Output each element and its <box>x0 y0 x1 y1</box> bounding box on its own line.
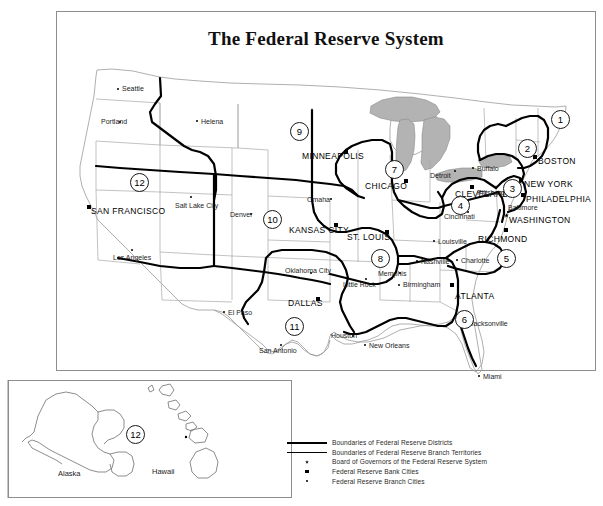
branch-city-label-oklahoma-city: Oklahoma City <box>285 267 331 274</box>
bank-city-label-kansas-city: KANSAS CITY <box>289 226 349 235</box>
branch-city-label-helena: Helena <box>201 118 223 125</box>
district-marker-11: 11 <box>285 317 304 336</box>
branch-city-marker <box>280 344 282 346</box>
bank-city-marker <box>450 283 454 287</box>
branch-city-label-new-orleans: New Orleans <box>369 342 409 349</box>
bank-city-label-dallas: DALLAS <box>288 299 323 308</box>
branch-city-marker <box>131 249 133 251</box>
branch-city-label-buffalo: Buffalo <box>477 165 499 172</box>
bank-city-label-san-francisco: SAN FRANCISCO <box>91 207 165 216</box>
branch-city-label-jacksonville: Jacksonville <box>470 320 508 327</box>
legend-row-star-marker: Board of Governors of the Federal Reserv… <box>282 457 582 467</box>
branch-city-marker <box>364 344 366 346</box>
branch-city-marker <box>472 167 474 169</box>
inset-region-label-alaska: Alaska <box>58 470 81 478</box>
district-marker-12: 12 <box>130 173 149 192</box>
bank-city-label-minneapolis: MINNEAPOLIS <box>302 152 364 161</box>
legend-label: Federal Reserve Bank Cities <box>332 468 419 475</box>
legend-row-thin-line: Boundaries of Federal Reserve Branch Ter… <box>282 448 582 458</box>
dot-marker-icon <box>306 480 308 482</box>
district-marker-3: 3 <box>503 179 522 198</box>
branch-city-label-los-angeles: Los Angeles <box>113 254 151 261</box>
district-marker-8: 8 <box>371 249 390 268</box>
inset-region-label-hawaii: Hawaii <box>152 468 175 476</box>
thin-line-icon <box>287 452 327 453</box>
bank-city-marker <box>504 228 508 232</box>
bank-city-label-richmond: RICHMOND <box>478 235 528 244</box>
branch-city-label-birmingham: Birmingham <box>403 281 440 288</box>
legend-label: Boundaries of Federal Reserve Districts <box>332 439 452 446</box>
legend-row-square-marker: Federal Reserve Bank Cities <box>282 467 582 477</box>
bank-city-label-new-york: NEW YORK <box>524 180 573 189</box>
bank-city-label-st-louis: ST. LOUIS <box>347 233 390 242</box>
legend-row-thick-line: Boundaries of Federal Reserve Districts <box>282 438 582 448</box>
branch-city-marker <box>223 311 225 313</box>
branch-city-label-detroit: Detroit <box>430 172 451 179</box>
branch-city-label-denver: Denver <box>230 211 253 218</box>
district-marker-2: 2 <box>518 139 537 158</box>
branch-city-label-louisville: Louisville <box>438 238 467 245</box>
legend-key-wrap <box>282 442 332 445</box>
district-marker-7: 7 <box>385 160 404 179</box>
bank-city-label-philadelphia: PHILADELPHIA <box>526 195 591 204</box>
branch-city-marker <box>117 88 119 90</box>
branch-city-marker <box>456 259 458 261</box>
district-marker-10: 10 <box>263 210 282 229</box>
branch-city-label-little-rock: Little Rock <box>343 281 376 288</box>
legend-key-wrap <box>282 480 332 482</box>
legend-label: Federal Reserve Branch Cities <box>332 478 425 485</box>
square-marker-icon <box>305 470 308 473</box>
district-marker-9: 9 <box>290 122 309 141</box>
bank-city-label-chicago: CHICAGO <box>365 182 407 191</box>
federal-reserve-map-page: The Federal Reserve System <box>0 0 603 506</box>
branch-city-label-miami: Miami <box>483 373 502 380</box>
branch-city-marker <box>433 240 435 242</box>
thick-line-icon <box>287 442 327 445</box>
district-marker-6: 6 <box>455 310 474 329</box>
branch-city-label-houston: Houston <box>331 332 357 339</box>
legend-label: Board of Governors of the Federal Reserv… <box>332 458 487 465</box>
legend-key-wrap <box>282 460 332 464</box>
branch-city-marker <box>190 196 192 198</box>
branch-city-marker <box>196 120 198 122</box>
branch-city-label-charlotte: Charlotte <box>461 257 489 264</box>
branch-city-label-salt-lake-city: Salt Lake City <box>175 202 218 209</box>
map-legend: Boundaries of Federal Reserve DistrictsB… <box>282 438 582 486</box>
star-marker-icon <box>305 460 309 464</box>
bank-city-marker <box>521 193 525 197</box>
branch-city-marker <box>454 170 456 172</box>
branch-city-label-nashville: Nashville <box>421 258 449 265</box>
branch-city-marker <box>416 260 418 262</box>
district-marker-5: 5 <box>497 249 516 268</box>
branch-city-marker <box>503 206 505 208</box>
branch-city-marker <box>365 278 367 280</box>
branch-city-label-memphis: Memphis <box>378 270 406 277</box>
district-marker-1: 1 <box>551 110 570 129</box>
branch-city-marker <box>398 284 400 286</box>
branch-city-label-baltimore: Baltimore <box>508 204 538 211</box>
branch-city-marker <box>478 375 480 377</box>
legend-label: Boundaries of Federal Reserve Branch Ter… <box>332 449 481 456</box>
bank-city-label-atlanta: ATLANTA <box>455 292 494 301</box>
bank-city-label-boston: BOSTON <box>538 157 576 166</box>
district-marker-4: 4 <box>451 196 470 215</box>
legend-row-dot-marker: Federal Reserve Branch Cities <box>282 476 582 486</box>
branch-city-label-san-antonio: San Antonio <box>259 347 297 354</box>
bank-city-label-washington: WASHINGTON <box>509 216 571 225</box>
legend-key-wrap <box>282 452 332 453</box>
district-marker-12: 12 <box>126 425 145 444</box>
branch-city-label-seattle: Seattle <box>122 85 144 92</box>
branch-city-label-portland: Portland <box>101 118 127 125</box>
branch-city-label-el-paso: El Paso <box>228 309 252 316</box>
branch-city-marker <box>330 198 332 200</box>
branch-city-label-omaha: Omaha <box>307 196 330 203</box>
legend-key-wrap <box>282 470 332 473</box>
